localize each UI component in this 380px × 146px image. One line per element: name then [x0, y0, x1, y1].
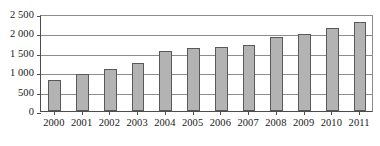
y-axis-tick-label: 1 000: [10, 68, 34, 79]
bar-slot: [326, 16, 339, 111]
x-axis-tick-label: 2007: [237, 117, 258, 130]
bar-slot: [132, 16, 145, 111]
x-axis-tick-label: 2008: [265, 117, 286, 130]
x-axis-tick-mark: [304, 112, 305, 115]
bar: [354, 22, 367, 111]
bar: [298, 34, 311, 111]
bar: [48, 80, 61, 111]
x-axis-tick-labels: 2000200120022003200420052006200720082009…: [40, 117, 373, 135]
y-axis-tick-mark: [37, 74, 41, 75]
x-axis-tick-label: 2006: [210, 117, 231, 130]
bar: [215, 47, 228, 111]
y-axis-tick-label: 500: [18, 87, 34, 98]
bar: [104, 69, 117, 111]
bar-slot: [298, 16, 311, 111]
y-axis-tick-label: 2 000: [10, 29, 34, 40]
y-axis-tick-label: 0: [29, 107, 34, 118]
x-axis-tick-mark: [137, 112, 138, 115]
y-axis-tick-labels: 05001 0001 5002 0002 500: [0, 0, 37, 146]
y-axis-tick-mark: [37, 16, 41, 17]
x-axis-tick-label: 2001: [71, 117, 92, 130]
plot-area: [40, 15, 373, 112]
x-axis-tick-mark: [193, 112, 194, 115]
x-axis-tick-mark: [165, 112, 166, 115]
x-axis-tick-mark: [276, 112, 277, 115]
bar: [132, 63, 145, 112]
y-axis-tick-mark: [37, 55, 41, 56]
y-axis-tick-label: 2 500: [10, 10, 34, 21]
bar-slot: [104, 16, 117, 111]
x-axis-tick-label: 2004: [154, 117, 175, 130]
x-axis-tick-label: 2005: [182, 117, 203, 130]
x-axis-tick-mark: [359, 112, 360, 115]
bar-chart: 05001 0001 5002 0002 500 200020012002200…: [0, 0, 380, 146]
x-axis-tick-label: 2000: [43, 117, 64, 130]
x-axis-tick-mark: [54, 112, 55, 115]
x-axis-tick-mark: [109, 112, 110, 115]
x-axis-tick-label: 2010: [321, 117, 342, 130]
bar: [187, 48, 200, 111]
bar-slot: [243, 16, 256, 111]
x-axis-tick-label: 2011: [349, 117, 370, 130]
bar-series: [41, 16, 372, 111]
bar-slot: [215, 16, 228, 111]
bar-slot: [354, 16, 367, 111]
x-axis-tick-label: 2009: [293, 117, 314, 130]
bar-slot: [187, 16, 200, 111]
x-axis-tick-mark: [331, 112, 332, 115]
y-axis-tick-mark: [37, 94, 41, 95]
bar-slot: [48, 16, 61, 111]
x-axis-tick-marks: [40, 112, 373, 116]
bar: [270, 37, 283, 111]
x-axis-tick-mark: [248, 112, 249, 115]
bar-slot: [159, 16, 172, 111]
x-axis-tick-mark: [82, 112, 83, 115]
y-axis-tick-label: 1 500: [10, 49, 34, 60]
bar: [326, 28, 339, 111]
bar: [243, 45, 256, 111]
bar-slot: [76, 16, 89, 111]
bar: [159, 51, 172, 111]
bar: [76, 74, 89, 111]
x-axis-tick-label: 2002: [99, 117, 120, 130]
x-axis-tick-label: 2003: [126, 117, 147, 130]
x-axis-tick-mark: [220, 112, 221, 115]
y-axis-tick-mark: [37, 35, 41, 36]
bar-slot: [270, 16, 283, 111]
